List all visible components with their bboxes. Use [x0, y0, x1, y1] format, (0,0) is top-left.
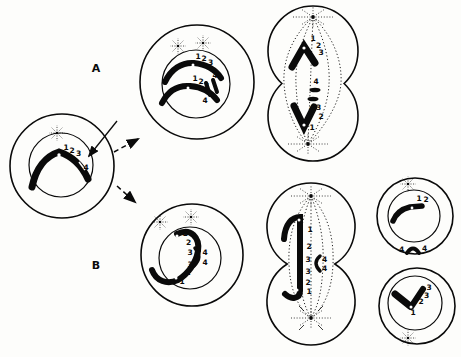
- centromere-dot: [176, 235, 179, 238]
- segment-label: 2: [198, 77, 203, 86]
- segment-label: 1: [307, 225, 312, 234]
- centromere-dot: [57, 153, 60, 156]
- centriole-aster-icon: [400, 330, 416, 346]
- centriole-aster-icon: [195, 35, 211, 51]
- centromere-dot: [302, 123, 305, 126]
- centromere-dot: [296, 289, 299, 292]
- segment-label: 3: [318, 48, 323, 57]
- cell-membrane: [379, 268, 455, 344]
- centriole-aster-icon: [49, 125, 65, 141]
- centriole-aster-icon: [183, 209, 199, 225]
- segment-label: 3: [305, 255, 310, 264]
- segment-label: 3: [208, 58, 213, 67]
- centromere-dot: [298, 219, 301, 222]
- fragment-label: 4: [322, 255, 327, 264]
- segment-label: 2: [423, 195, 428, 204]
- segment-label: 3: [187, 248, 192, 257]
- segment-label: 2: [306, 242, 311, 251]
- segment-label: 3: [305, 267, 310, 276]
- segment-label: 3: [204, 81, 209, 90]
- segment-label: 1: [410, 308, 415, 317]
- fragment-label: 4: [399, 245, 404, 254]
- segment-label: 1: [310, 34, 315, 43]
- a-prophase-cell: 1 2 3 1 2 3 4 4: [140, 25, 254, 139]
- centromere-dot: [192, 64, 195, 67]
- segment-label: 1: [309, 123, 314, 132]
- fragment-label: 4: [422, 244, 427, 253]
- b-prophase-cell: 1 2 3 3 2 1 4 4: [141, 204, 243, 306]
- segment-label: 2: [318, 112, 323, 121]
- b-anaphase-cell: 1 2 3 3 2 1 4 4: [267, 183, 355, 345]
- segment-label: 3: [76, 149, 81, 158]
- branch-a-arrow: [114, 139, 138, 152]
- segment-label: 2: [186, 238, 191, 247]
- fragment-bar: [310, 88, 321, 93]
- segment-label: 1: [192, 74, 197, 83]
- fragment-label: 4: [212, 71, 217, 80]
- b-daughter-bottom-cell: 3 3 2 1: [379, 268, 455, 346]
- fragment-bar: [308, 97, 319, 102]
- centromere-dot: [411, 207, 414, 210]
- fragment-label: 4: [202, 248, 207, 257]
- centriole-aster-icon: [170, 38, 186, 54]
- fragment-label: 4: [309, 103, 314, 112]
- centromere-dot: [175, 277, 178, 280]
- branch-a-label: A: [92, 62, 101, 75]
- centromere-dot: [187, 87, 190, 90]
- cell-membrane: [10, 114, 114, 218]
- cytology-diagram-canvas: 1 2 3 4 A B 1 2 3 1 2 3 4 4: [0, 0, 461, 357]
- diagram-svg: 1 2 3 4 A B 1 2 3 1 2 3 4 4: [0, 0, 461, 357]
- segment-label: 1: [179, 277, 184, 286]
- segment-label: 2: [305, 278, 310, 287]
- segment-label: 2: [69, 146, 74, 155]
- branch-b-arrow: [117, 186, 135, 202]
- centriole-aster-icon: [152, 214, 168, 230]
- centromere-dot: [302, 46, 305, 49]
- fragment-label: 4: [313, 77, 318, 86]
- b-daughter-top-cell: 1 2 4 4: [377, 176, 453, 254]
- fragment-label: 4: [322, 264, 327, 273]
- segment-label: 1: [416, 194, 421, 203]
- fragment-label: 4: [202, 258, 207, 267]
- fragment-label: 4: [202, 96, 207, 105]
- segment-label: 1: [306, 287, 311, 296]
- segment-label: 1: [195, 52, 200, 61]
- segment-label: 3: [424, 291, 429, 300]
- branch-b-label: B: [92, 259, 100, 272]
- segment-label: 2: [201, 54, 206, 63]
- segment-label: 2: [418, 297, 423, 306]
- centriole-aster-icon: [400, 176, 416, 192]
- a-anaphase-cell: 1 2 3 4 4 3 2 1: [268, 6, 358, 161]
- segment-label: 1: [63, 143, 68, 152]
- origin-cell: 1 2 3 4: [10, 114, 114, 218]
- segment-label: 2: [185, 268, 190, 277]
- segment-label: 4: [83, 163, 88, 172]
